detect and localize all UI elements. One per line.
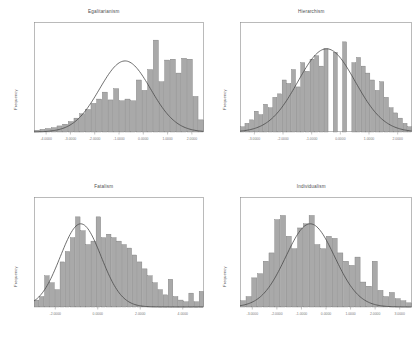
svg-text:-3.0000: -3.0000 [248, 137, 260, 141]
panel-egalitarianism: Egalitarianism Frequency -4.0000-3.0000-… [0, 0, 208, 175]
svg-text:2.0000: 2.0000 [187, 137, 197, 141]
plot-area-hierarchism: -3.0000-2.0000-1.00000.00001.00002.00000… [240, 22, 412, 144]
panel-title-egalitarianism: Egalitarianism [0, 9, 208, 14]
svg-text:-3.0000: -3.0000 [246, 312, 258, 316]
y-axis-label-fatalism: Frequency [13, 266, 18, 287]
svg-text:0.0000: 0.0000 [138, 137, 148, 141]
svg-text:-1.0000: -1.0000 [295, 312, 307, 316]
svg-text:1.0000: 1.0000 [162, 137, 172, 141]
svg-text:3.0000: 3.0000 [394, 312, 404, 316]
svg-text:0.0000: 0.0000 [335, 137, 345, 141]
plot-area-egalitarianism: -4.0000-3.0000-2.0000-1.00000.00001.0000… [34, 22, 204, 144]
svg-text:-2.0000: -2.0000 [50, 312, 62, 316]
panel-individualism: Individualism Frequency -3.0000-2.0000-1… [208, 175, 415, 349]
svg-text:-1.0000: -1.0000 [113, 137, 125, 141]
panel-fatalism: Fatalism Frequency -2.00000.00002.00004.… [0, 175, 208, 349]
svg-text:-2.0000: -2.0000 [277, 137, 289, 141]
panel-title-hierarchism: Hierarchism [208, 9, 415, 14]
plot-area-individualism: -3.0000-2.0000-1.00000.00001.00002.00003… [240, 197, 412, 319]
svg-text:-2.0000: -2.0000 [271, 312, 283, 316]
svg-text:-1.0000: -1.0000 [305, 137, 317, 141]
svg-text:2.0000: 2.0000 [369, 312, 379, 316]
svg-text:-4.0000: -4.0000 [40, 137, 52, 141]
histogram-grid: Egalitarianism Frequency -4.0000-3.0000-… [0, 0, 415, 349]
svg-text:2.0000: 2.0000 [392, 137, 402, 141]
svg-text:4.0000: 4.0000 [178, 312, 188, 316]
svg-text:1.0000: 1.0000 [363, 137, 373, 141]
svg-text:-3.0000: -3.0000 [65, 137, 77, 141]
panel-hierarchism: Hierarchism Frequency -3.0000-2.0000-1.0… [208, 0, 415, 175]
y-axis-label-individualism: Frequency [222, 266, 227, 287]
svg-text:2.0000: 2.0000 [135, 312, 145, 316]
y-axis-label-egalitarianism: Frequency [13, 89, 18, 110]
svg-text:-2.0000: -2.0000 [89, 137, 101, 141]
panel-title-fatalism: Fatalism [0, 184, 208, 189]
svg-text:1.0000: 1.0000 [345, 312, 355, 316]
plot-area-fatalism: -2.00000.00002.00004.00000204060 [34, 197, 204, 319]
svg-text:0.0000: 0.0000 [320, 312, 330, 316]
y-axis-label-hierarchism: Frequency [222, 89, 227, 110]
panel-title-individualism: Individualism [208, 184, 415, 189]
svg-text:0.0000: 0.0000 [93, 312, 103, 316]
